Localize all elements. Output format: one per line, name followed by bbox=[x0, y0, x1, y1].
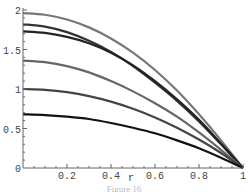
y-tick-label: 2 bbox=[15, 6, 21, 17]
y-tick-label: 0.5 bbox=[3, 125, 21, 136]
figure-caption: Figure 16 bbox=[0, 184, 248, 192]
x-tick-label: 1 bbox=[240, 171, 246, 182]
x-tick-label: 0.6 bbox=[146, 171, 164, 182]
y-tick-label: 1 bbox=[15, 85, 21, 96]
y-tick-label: 1.5 bbox=[3, 46, 21, 57]
x-tick-label: 0.4 bbox=[102, 171, 120, 182]
line-chart: 0.20.40.60.8100.511.52r bbox=[0, 0, 248, 192]
x-tick-label: 0.8 bbox=[190, 171, 208, 182]
y-tick-label: 0 bbox=[15, 164, 21, 175]
series-layer bbox=[23, 13, 243, 168]
x-tick-label: 0.2 bbox=[58, 171, 76, 182]
x-axis-label: r bbox=[128, 173, 134, 184]
